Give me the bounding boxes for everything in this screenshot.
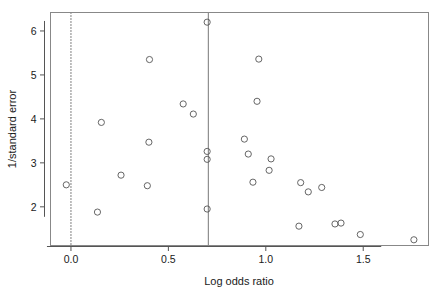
scatter-plot-canvas: 0.00.51.01.5 23456 Log odds ratio 1/stan… (0, 0, 444, 296)
x-axis-tick-label: 1.5 (356, 253, 371, 265)
y-axis-tick-label: 2 (31, 201, 37, 213)
y-axis-tick-label: 4 (31, 113, 37, 125)
x-axis-tick-label: 0.0 (64, 253, 79, 265)
y-axis-tick-label: 3 (31, 157, 37, 169)
y-axis-label: 1/standard error (6, 90, 18, 169)
x-axis-label: Log odds ratio (204, 275, 274, 287)
x-axis-tick-label: 0.5 (161, 253, 176, 265)
funnel-plot-figure: 0.00.51.01.5 23456 Log odds ratio 1/stan… (0, 0, 444, 296)
x-axis-tick-label: 1.0 (258, 253, 273, 265)
y-axis-tick-label: 5 (31, 69, 37, 81)
y-axis-tick-label: 6 (31, 25, 37, 37)
